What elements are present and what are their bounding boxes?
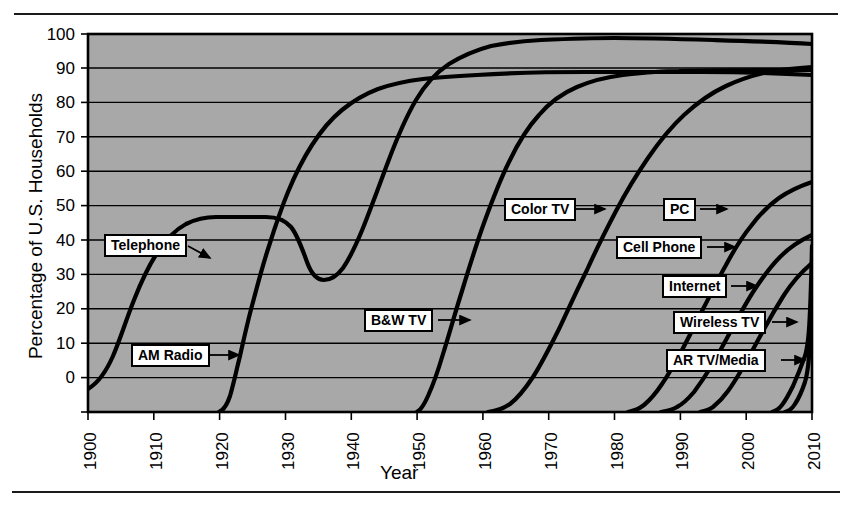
callout-am-radio: AM Radio [131, 344, 210, 367]
x-tick-1990: 1990 [673, 432, 693, 470]
y-axis-title: Percentage of U.S. Households [22, 86, 50, 366]
callout-wireless-tv: Wireless TV [673, 311, 766, 334]
y-axis-title-text: Percentage of U.S. Households [25, 93, 47, 359]
callout-ar-tv-media: AR TV/Media [666, 349, 766, 372]
x-tick-1930: 1930 [279, 432, 299, 470]
x-tick-1960: 1960 [476, 432, 496, 470]
x-tick-2010: 2010 [805, 432, 825, 470]
technology-adoption-chart: 100 90 80 70 60 50 40 30 20 10 0 1900 19… [0, 0, 851, 511]
x-axis-title: Year [380, 462, 418, 484]
x-tick-1980: 1980 [608, 432, 628, 470]
x-tick-1920: 1920 [213, 432, 233, 470]
y-tick-0: 0 [33, 368, 75, 388]
callout-telephone: Telephone [104, 234, 187, 257]
callout-pc: PC [663, 198, 696, 221]
callout-color-tv: Color TV [504, 198, 576, 221]
figure-page: 100 90 80 70 60 50 40 30 20 10 0 1900 19… [0, 0, 851, 511]
y-tick-90: 90 [33, 59, 75, 79]
callout-cell-phone: Cell Phone [616, 236, 702, 259]
x-tick-2000: 2000 [739, 432, 759, 470]
x-tick-1910: 1910 [147, 432, 167, 470]
x-tick-1970: 1970 [542, 432, 562, 470]
callout-internet: Internet [662, 275, 727, 298]
x-tick-1940: 1940 [344, 432, 364, 470]
callout-bw-tv: B&W TV [364, 309, 433, 332]
y-tick-100: 100 [33, 25, 75, 45]
x-tick-1900: 1900 [81, 432, 101, 470]
